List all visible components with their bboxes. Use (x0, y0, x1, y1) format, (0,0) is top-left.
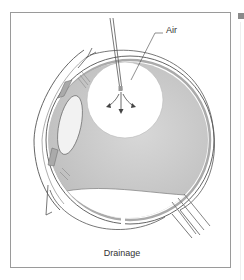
drainage-site (121, 216, 125, 226)
figure-caption: Drainage (0, 248, 244, 258)
eye-illustration (0, 0, 244, 280)
air-label: Air (166, 25, 177, 35)
needle-tip (119, 86, 123, 91)
air-bubble (87, 62, 163, 138)
